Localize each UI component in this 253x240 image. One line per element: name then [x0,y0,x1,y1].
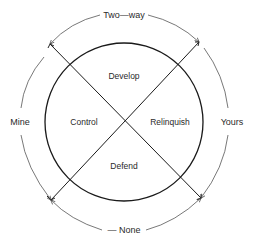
arc-yours-bottom [201,135,228,198]
outer-label-two-way: Two—way [103,10,145,20]
arc-mine-bottom [21,135,51,200]
outer-label-mine: Mine [10,117,30,127]
outer-label-yours: Yours [221,117,244,127]
arc-two-way-right [148,15,199,42]
arc-two-way-left [50,15,100,44]
quadrant-label-control: Control [70,117,98,127]
arc-none-left [51,200,102,230]
quadrant-label-relinquish: Relinquish [150,117,190,127]
quadrant-label-develop: Develop [108,71,139,81]
arc-yours-top [204,48,228,108]
arc-mine-top [21,57,44,108]
arc-none-right [146,198,201,230]
outer-label-none: — None [107,225,140,235]
quadrant-label-defend: Defend [110,161,138,171]
ownership-diagram: Develop Control Relinquish Defend Two—wa… [0,0,253,240]
